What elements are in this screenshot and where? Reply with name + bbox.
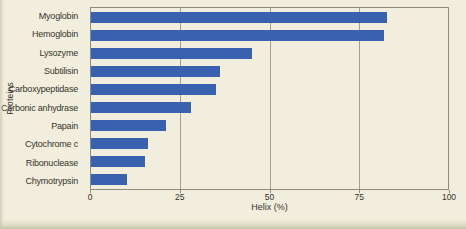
bar-row (91, 153, 448, 171)
x-axis-title: Helix (%) (90, 202, 449, 212)
bar-chymotrypsin (91, 174, 127, 185)
bar-carboxypeptidase (91, 84, 216, 95)
bar-hemoglobin (91, 30, 384, 41)
plot-area (90, 7, 449, 190)
bar-lysozyme (91, 48, 252, 59)
category-label: Myoglobin (0, 7, 84, 25)
bar-row (91, 8, 448, 26)
category-label: Ribonuclease (0, 153, 84, 171)
bar-row (91, 44, 448, 62)
category-label: Papain (0, 117, 84, 135)
bar-row (91, 135, 448, 153)
x-tick-label-25: 25 (175, 192, 184, 202)
bar-papain (91, 120, 166, 131)
category-label: Hemoglobin (0, 25, 84, 43)
x-tick-label-50: 50 (265, 192, 274, 202)
bar-row (91, 80, 448, 98)
bar-carbonic-anhydrase (91, 102, 191, 113)
bar-row (91, 171, 448, 189)
scan-edge-bottom (0, 219, 466, 229)
category-label: Lysozyme (0, 44, 84, 62)
category-labels: MyoglobinHemoglobinLysozymeSubtilisinCar… (0, 7, 84, 190)
bar-rows (91, 8, 448, 189)
x-tick-label-100: 100 (442, 192, 456, 202)
x-tick-label-75: 75 (355, 192, 364, 202)
bar-row (91, 98, 448, 116)
bar-subtilisin (91, 66, 220, 77)
category-label: Subtilisin (0, 62, 84, 80)
category-label: Carboxypeptidase (0, 80, 84, 98)
bar-row (91, 62, 448, 80)
category-label: Carbonic anhydrase (0, 98, 84, 116)
category-label: Cytochrome c (0, 135, 84, 153)
helix-bar-chart-figure: Proteins MyoglobinHemoglobinLysozymeSubt… (0, 0, 466, 229)
x-tick-label-0: 0 (88, 192, 93, 202)
bar-row (91, 26, 448, 44)
category-label: Chymotrypsin (0, 172, 84, 190)
bar-ribonuclease (91, 156, 145, 167)
bar-myoglobin (91, 12, 387, 23)
bar-row (91, 117, 448, 135)
bar-cytochrome-c (91, 138, 148, 149)
